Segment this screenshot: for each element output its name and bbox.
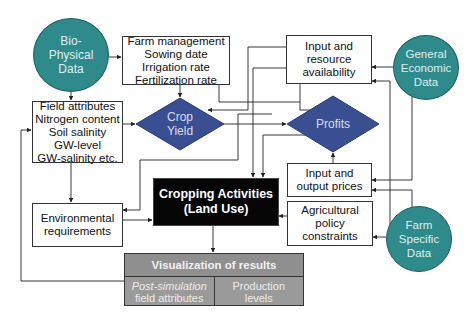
input-resource-availability-box: Input and resource availability	[286, 35, 372, 84]
bio-physical-data-node: Bio- Physical Data	[33, 18, 109, 92]
input-output-prices-box: Input and output prices	[287, 163, 372, 197]
input-output-line2: output prices	[297, 180, 363, 193]
production-levels-cell: Production levels	[214, 277, 304, 306]
environmental-line1: Environmental	[41, 212, 115, 225]
sowing-date: Sowing date	[144, 48, 207, 61]
farm-specific-data-node: Farm Specific Data	[386, 206, 452, 272]
post-simulation-label: Post-simulation	[132, 280, 207, 292]
environmental-requirements-box: Environmental requirements	[32, 203, 123, 247]
general-economic-data-node: General Economic Data	[393, 35, 459, 100]
profits-text: Profits	[316, 117, 350, 131]
crop-yield-line2: Yield	[167, 124, 193, 138]
nitrogen-content: Nitrogen content	[35, 113, 119, 126]
field-attributes-label: field attributes	[135, 292, 203, 304]
farm-management-box: Farm management Sowing date Irrigation r…	[122, 36, 230, 85]
input-resource-line3: availability	[302, 66, 355, 79]
cropping-activities-box: Cropping Activities (Land Use)	[153, 178, 279, 226]
input-resource-line1: Input and	[305, 40, 353, 53]
irrigation-rate: Irrigation rate	[142, 61, 210, 74]
gw-salinity: GW-salinity etc.	[37, 152, 117, 165]
farm-specific-line3: Data	[407, 246, 431, 260]
field-attributes-title: Field attributes	[40, 100, 115, 113]
cropping-activities-title: Cropping Activities	[159, 187, 273, 202]
gw-level: GW-level	[54, 139, 101, 152]
field-attributes-box: Field attributes Nitrogen content Soil s…	[32, 101, 123, 163]
fertilization-rate: Fertilization rate	[135, 74, 217, 87]
policy-line1: Agricultural	[301, 204, 359, 217]
farm-management-title: Farm management	[127, 35, 224, 48]
bio-physical-line3: Data	[58, 62, 83, 76]
soil-salinity: Soil salinity	[49, 126, 107, 139]
levels-label: levels	[245, 292, 273, 304]
environmental-line2: requirements	[44, 225, 111, 238]
profits-label: Profits	[298, 114, 368, 134]
bio-physical-line1: Bio-	[60, 34, 81, 48]
input-resource-line2: resource	[307, 53, 352, 66]
crop-yield-label: Crop Yield	[146, 106, 214, 142]
agricultural-policy-box: Agricultural policy constraints	[287, 201, 373, 246]
farm-specific-line2: Specific	[399, 232, 439, 246]
production-label: Production	[232, 280, 285, 292]
bio-physical-line2: Physical	[49, 48, 94, 62]
farm-specific-line1: Farm	[406, 218, 433, 232]
policy-line2: policy	[315, 217, 344, 230]
visualization-results-block: Visualization of results Post-simulation…	[124, 253, 304, 306]
policy-line3: constraints	[302, 230, 358, 243]
visualization-title: Visualization of results	[125, 254, 303, 277]
general-economic-line3: Data	[414, 75, 438, 89]
general-economic-line2: Economic	[401, 61, 452, 75]
crop-yield-line1: Crop	[167, 110, 193, 124]
general-economic-line1: General	[406, 47, 447, 61]
input-output-line1: Input and	[306, 167, 354, 180]
post-simulation-cell: Post-simulation field attributes	[125, 277, 214, 306]
land-use-subtitle: (Land Use)	[184, 202, 249, 217]
